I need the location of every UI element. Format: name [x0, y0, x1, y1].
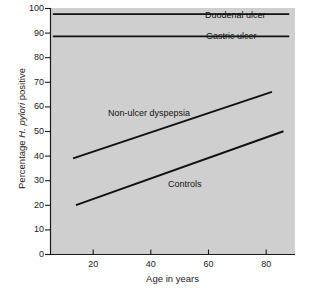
x-tick-marks — [93, 250, 266, 255]
plot-svg — [0, 0, 313, 293]
x-tick-label-80: 80 — [251, 259, 281, 270]
series-line-controls — [76, 131, 284, 205]
x-axis-title: Age in years — [50, 273, 295, 284]
x-tick-label-20: 20 — [78, 259, 108, 270]
series-label-non-ulcer-dyspepsia: Non-ulcer dyspepsia — [108, 108, 190, 118]
y-tick-label-100: 100 — [22, 4, 44, 13]
chart-figure: 0 10 20 30 40 50 60 70 80 90 100 20 40 6… — [0, 0, 313, 293]
y-axis-title-prefix: Percentage — [16, 138, 27, 189]
x-tick-label-40: 40 — [136, 259, 166, 270]
series-label-duodenal-ulcer: Duodenal ulcer — [205, 10, 266, 20]
y-axis-title-suffix: positive — [16, 68, 27, 103]
y-axis-title: Percentage H. pylori positive — [16, 14, 27, 244]
series-label-controls: Controls — [168, 179, 202, 189]
series-line-non-ulcer-dyspepsia — [73, 92, 272, 159]
x-tick-label-60: 60 — [194, 259, 224, 270]
y-axis-title-italic: H. pylori — [16, 103, 27, 138]
y-tick-marks — [45, 9, 50, 255]
y-tick-label-0: 0 — [22, 250, 44, 259]
series-label-gastric-ulcer: Gastric ulcer — [206, 31, 257, 41]
